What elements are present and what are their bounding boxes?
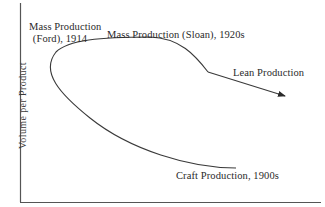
label-ford-mass-production: Mass Production (Ford), 1914	[29, 21, 91, 45]
label-lean-production: Lean Production	[233, 67, 304, 79]
y-axis-label: Volume per Product	[17, 56, 28, 156]
label-ford-line2: (Ford), 1914	[29, 33, 91, 45]
production-evolution-diagram: Volume per Product Mass Production (Ford…	[0, 0, 325, 207]
label-sloan-mass-production: Mass Production (Sloan), 1920s	[107, 29, 245, 41]
label-craft-production: Craft Production, 1900s	[176, 170, 279, 182]
label-ford-line1: Mass Production	[29, 21, 91, 33]
production-evolution-curve	[50, 37, 236, 168]
